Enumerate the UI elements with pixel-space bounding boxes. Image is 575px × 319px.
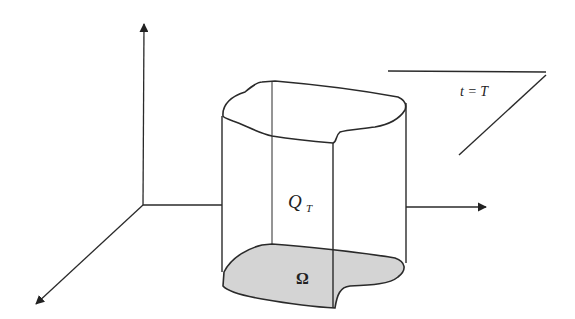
base-region-omega bbox=[223, 244, 404, 308]
diagonal-axis bbox=[36, 205, 143, 304]
vertical-axis bbox=[143, 24, 144, 205]
base-label-omega: Ω bbox=[296, 270, 309, 287]
cylinder-top-cap bbox=[223, 81, 406, 143]
plane-top-edge bbox=[388, 71, 546, 72]
plane-label: t = T bbox=[460, 84, 489, 99]
cylinder-label: Q bbox=[288, 191, 302, 212]
diagram-canvas: t = T Q T Ω bbox=[0, 0, 575, 319]
cylinder-label-subscript: T bbox=[306, 202, 313, 214]
